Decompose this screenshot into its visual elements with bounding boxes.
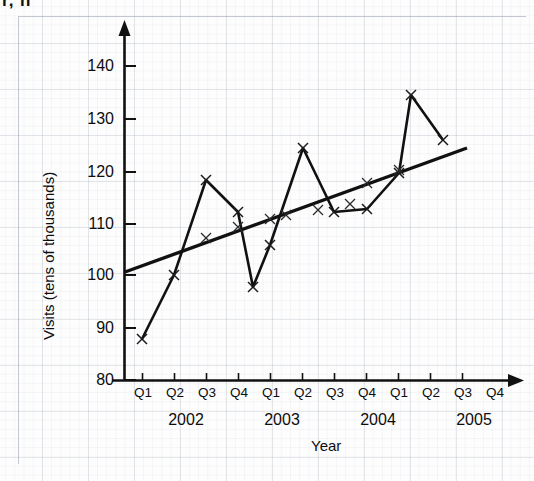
y-tick-label: 110 <box>68 215 114 233</box>
y-tick-label: 90 <box>68 319 114 337</box>
x-tick-label-year: 2005 <box>446 411 502 429</box>
x-tick-label-quarter: Q2 <box>288 385 318 400</box>
y-axis <box>119 20 137 381</box>
data-point-markers <box>137 90 448 344</box>
x-tick-label-quarter: Q1 <box>256 385 286 400</box>
x-tick-label-quarter: Q4 <box>352 385 382 400</box>
y-axis-title: Visits (tens of thousands) <box>40 172 57 340</box>
x-axis-title: Year <box>311 437 341 454</box>
x-tick-label-year: 2002 <box>158 411 214 429</box>
y-tick-label: 140 <box>68 57 114 75</box>
x-tick-label-quarter: Q3 <box>448 385 478 400</box>
y-tick-label: 120 <box>68 163 114 181</box>
x-tick-label-quarter: Q4 <box>480 385 510 400</box>
x-tick-label-quarter: Q1 <box>128 385 158 400</box>
data-series-line <box>142 95 443 339</box>
x-tick-label-quarter: Q3 <box>192 385 222 400</box>
y-tick-label: 80 <box>68 371 114 389</box>
x-tick-label-year: 2003 <box>254 411 310 429</box>
x-tick-label-quarter: Q2 <box>160 385 190 400</box>
x-tick-label-quarter: Q2 <box>416 385 446 400</box>
x-tick-label-year: 2004 <box>350 411 406 429</box>
x-tick-label-quarter: Q1 <box>384 385 414 400</box>
y-tick-label: 130 <box>68 110 114 128</box>
y-tick-label: 100 <box>68 266 114 284</box>
x-tick-label-quarter: Q3 <box>320 385 350 400</box>
x-tick-label-quarter: Q4 <box>224 385 254 400</box>
